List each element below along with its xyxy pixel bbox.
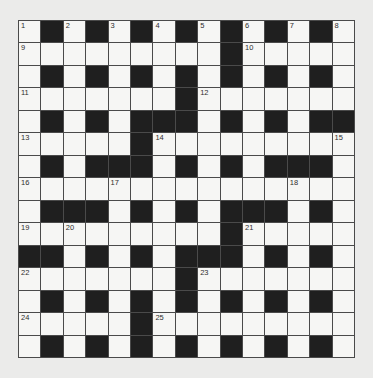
grid-cell[interactable]	[153, 201, 174, 222]
grid-cell[interactable]	[86, 223, 107, 244]
grid-cell[interactable]	[153, 336, 174, 357]
grid-cell[interactable]	[64, 66, 85, 87]
grid-cell[interactable]: 22	[19, 268, 40, 289]
grid-cell[interactable]: 8	[333, 21, 354, 42]
grid-cell[interactable]	[243, 268, 264, 289]
grid-cell[interactable]	[310, 133, 331, 154]
grid-cell[interactable]	[86, 43, 107, 64]
grid-cell[interactable]	[198, 156, 219, 177]
grid-cell[interactable]	[288, 246, 309, 267]
grid-cell[interactable]	[243, 133, 264, 154]
grid-cell[interactable]	[288, 291, 309, 312]
grid-cell[interactable]	[310, 313, 331, 334]
grid-cell[interactable]	[198, 133, 219, 154]
grid-cell[interactable]	[153, 43, 174, 64]
grid-cell[interactable]: 10	[243, 43, 264, 64]
grid-cell[interactable]	[310, 178, 331, 199]
grid-cell[interactable]	[176, 178, 197, 199]
grid-cell[interactable]	[64, 111, 85, 132]
grid-cell[interactable]	[109, 291, 130, 312]
grid-cell[interactable]	[265, 313, 286, 334]
grid-cell[interactable]	[176, 313, 197, 334]
grid-cell[interactable]	[64, 336, 85, 357]
grid-cell[interactable]	[265, 223, 286, 244]
grid-cell[interactable]: 14	[153, 133, 174, 154]
grid-cell[interactable]	[153, 291, 174, 312]
grid-cell[interactable]	[131, 268, 152, 289]
grid-cell[interactable]	[198, 201, 219, 222]
grid-cell[interactable]	[198, 223, 219, 244]
grid-cell[interactable]	[198, 66, 219, 87]
grid-cell[interactable]	[86, 178, 107, 199]
grid-cell[interactable]	[243, 246, 264, 267]
grid-cell[interactable]	[288, 336, 309, 357]
grid-cell[interactable]	[333, 88, 354, 109]
grid-cell[interactable]	[41, 268, 62, 289]
grid-cell[interactable]	[288, 223, 309, 244]
grid-cell[interactable]	[109, 88, 130, 109]
grid-cell[interactable]: 23	[198, 268, 219, 289]
grid-cell[interactable]	[153, 246, 174, 267]
grid-cell[interactable]	[109, 313, 130, 334]
grid-cell[interactable]	[109, 201, 130, 222]
grid-cell[interactable]	[198, 336, 219, 357]
grid-cell[interactable]	[288, 133, 309, 154]
grid-cell[interactable]	[176, 43, 197, 64]
grid-cell[interactable]	[243, 313, 264, 334]
grid-cell[interactable]	[221, 178, 242, 199]
grid-cell[interactable]	[153, 223, 174, 244]
grid-cell[interactable]	[109, 223, 130, 244]
grid-cell[interactable]	[19, 291, 40, 312]
grid-cell[interactable]: 11	[19, 88, 40, 109]
grid-cell[interactable]	[333, 43, 354, 64]
grid-cell[interactable]	[64, 156, 85, 177]
grid-cell[interactable]: 7	[288, 21, 309, 42]
grid-cell[interactable]	[176, 133, 197, 154]
grid-cell[interactable]: 12	[198, 88, 219, 109]
grid-cell[interactable]	[176, 223, 197, 244]
grid-cell[interactable]	[198, 111, 219, 132]
grid-cell[interactable]	[288, 88, 309, 109]
grid-cell[interactable]	[221, 268, 242, 289]
grid-cell[interactable]: 5	[198, 21, 219, 42]
grid-cell[interactable]	[333, 336, 354, 357]
grid-cell[interactable]	[333, 178, 354, 199]
grid-cell[interactable]	[333, 223, 354, 244]
grid-cell[interactable]: 24	[19, 313, 40, 334]
grid-cell[interactable]: 25	[153, 313, 174, 334]
grid-cell[interactable]	[131, 223, 152, 244]
grid-cell[interactable]	[86, 268, 107, 289]
grid-cell[interactable]	[41, 88, 62, 109]
grid-cell[interactable]	[243, 66, 264, 87]
grid-cell[interactable]: 4	[153, 21, 174, 42]
grid-cell[interactable]	[243, 156, 264, 177]
grid-cell[interactable]: 20	[64, 223, 85, 244]
grid-cell[interactable]	[86, 88, 107, 109]
grid-cell[interactable]: 18	[288, 178, 309, 199]
grid-cell[interactable]	[64, 88, 85, 109]
grid-cell[interactable]	[333, 246, 354, 267]
grid-cell[interactable]	[41, 223, 62, 244]
grid-cell[interactable]	[109, 268, 130, 289]
grid-cell[interactable]	[153, 66, 174, 87]
grid-cell[interactable]	[198, 291, 219, 312]
grid-cell[interactable]: 3	[109, 21, 130, 42]
grid-cell[interactable]	[333, 268, 354, 289]
grid-cell[interactable]	[310, 88, 331, 109]
grid-cell[interactable]	[131, 43, 152, 64]
grid-cell[interactable]	[288, 201, 309, 222]
grid-cell[interactable]	[198, 313, 219, 334]
grid-cell[interactable]	[221, 313, 242, 334]
grid-cell[interactable]	[64, 291, 85, 312]
grid-cell[interactable]	[109, 66, 130, 87]
grid-cell[interactable]	[221, 88, 242, 109]
grid-cell[interactable]	[333, 156, 354, 177]
grid-cell[interactable]	[265, 43, 286, 64]
grid-cell[interactable]	[288, 43, 309, 64]
grid-cell[interactable]: 13	[19, 133, 40, 154]
grid-cell[interactable]	[221, 133, 242, 154]
grid-cell[interactable]	[109, 336, 130, 357]
grid-cell[interactable]: 19	[19, 223, 40, 244]
grid-cell[interactable]	[310, 223, 331, 244]
grid-cell[interactable]	[64, 246, 85, 267]
